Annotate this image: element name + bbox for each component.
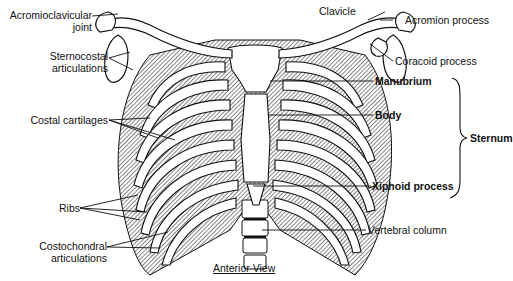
label-ribs: Ribs bbox=[30, 202, 80, 214]
label-line: articulations bbox=[10, 252, 107, 264]
label-costochondral-articulations: Costochondral articulations bbox=[10, 240, 107, 264]
label-sternocostal-articulations: Sternocostal articulations bbox=[10, 50, 108, 74]
label-line: Costochondral bbox=[10, 240, 107, 252]
label-line: Sternocostal bbox=[10, 50, 108, 62]
label-line: articulations bbox=[10, 62, 108, 74]
label-coracoid-process: Coracoid process bbox=[395, 55, 477, 67]
label-manubrium: Manubrium bbox=[375, 75, 432, 87]
label-body: Body bbox=[375, 109, 401, 121]
label-clavicle: Clavicle bbox=[319, 5, 356, 17]
label-acromioclavicular-joint: Acromioclavicular joint bbox=[2, 9, 92, 33]
label-vertebral-column: Vertebral column bbox=[368, 224, 447, 236]
left-glenoid bbox=[105, 35, 128, 82]
label-xiphoid-process: Xiphoid process bbox=[372, 180, 454, 192]
label-acromion-process: Acromion process bbox=[405, 14, 489, 26]
label-line: Acromioclavicular bbox=[2, 9, 92, 21]
coracoid-shape bbox=[371, 38, 387, 56]
label-costal-cartilages: Costal cartilages bbox=[10, 114, 108, 126]
label-line: Costal cartilages bbox=[10, 114, 108, 126]
label-line: joint bbox=[2, 21, 92, 33]
label-sternum: Sternum bbox=[470, 132, 513, 144]
figure-caption: Anterior View bbox=[213, 262, 275, 274]
sternum-body-shape bbox=[241, 94, 270, 182]
label-line: Ribs bbox=[30, 202, 80, 214]
vertebral-column-drawing bbox=[242, 200, 268, 269]
